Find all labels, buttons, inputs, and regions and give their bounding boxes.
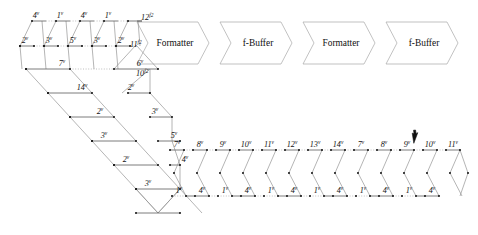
edge-label: 1v <box>360 185 367 195</box>
edge-label: 6v <box>137 58 144 68</box>
diagram-canvas: Formatterf-BufferFormatterf-Buffer 4v1v4… <box>0 0 478 235</box>
edge-label: 3v <box>144 178 152 188</box>
edge-label: 7v <box>59 58 66 68</box>
edge-label: 2v <box>128 82 135 92</box>
pipeline-block-label: f-Buffer <box>409 38 440 48</box>
edge-label: 4v <box>182 154 189 164</box>
edge-label: 1v <box>406 185 413 195</box>
block-group: Formatterf-BufferFormatterf-Buffer <box>137 22 458 64</box>
edge-label: 7v <box>358 139 365 149</box>
edge-label: 8v <box>381 139 388 149</box>
edge-label: 11v <box>448 139 459 149</box>
edge-label: 11f2 <box>130 39 142 49</box>
label-group: 4v1v4v1v2v3v5v3v2v12f211f210f27v6v14v2v2… <box>22 10 459 195</box>
edge-label: 11v <box>264 139 275 149</box>
edge-label: 10f2 <box>136 68 149 78</box>
edge-label: 3v <box>45 35 53 45</box>
edge-label: 4v <box>383 185 390 195</box>
edge-label: 9v <box>404 139 411 149</box>
edge-label: 1v <box>314 185 321 195</box>
pipeline-block-label: f-Buffer <box>243 38 274 48</box>
edge-label: 2v <box>118 35 125 45</box>
edge-label: 4v <box>81 10 88 20</box>
edge-label: 1v <box>105 10 112 20</box>
edge-label: 2v <box>123 154 130 164</box>
pipeline-block-label: Formatter <box>323 38 361 48</box>
mouse-pointer-icon <box>409 129 418 143</box>
edge-label: 1v <box>57 10 64 20</box>
edge-label: 14v <box>333 139 344 149</box>
edge-label: 14v <box>77 82 88 92</box>
edge-label: 1v <box>222 185 229 195</box>
edge-label: 4v <box>33 10 40 20</box>
edge-label: 2v <box>22 35 29 45</box>
edge-label: 1v <box>268 185 275 195</box>
edge-label: 5v <box>70 35 77 45</box>
edge-label: 4v <box>245 185 252 195</box>
edge-label: 4v <box>429 185 436 195</box>
edge-label: 4v <box>199 185 206 195</box>
edge-group <box>20 21 468 213</box>
pipeline-block-label: Formatter <box>157 38 195 48</box>
mouse-pointer-icon <box>409 129 418 143</box>
edge-label: 3v <box>100 130 108 140</box>
edge-label: 10v <box>241 139 252 149</box>
edge-label: 3v <box>151 106 159 116</box>
pipeline-diagram-svg: Formatterf-BufferFormatterf-Buffer 4v1v4… <box>0 0 478 235</box>
edge-label: 5v <box>171 130 178 140</box>
edge-label: 4v <box>337 185 344 195</box>
edge-label: 12f2 <box>141 12 154 22</box>
edge-label: 8v <box>197 139 204 149</box>
edge-label: 3v <box>93 35 101 45</box>
edge-label: 12v <box>287 139 298 149</box>
edge-label: 10v <box>425 139 436 149</box>
edge-label: 9v <box>220 139 227 149</box>
edge-label: 13v <box>310 139 321 149</box>
edge-label: 7v <box>174 139 181 149</box>
edge-label: 1v <box>176 185 183 195</box>
edge-label: 2v <box>97 106 104 116</box>
edge-label: 4v <box>291 185 298 195</box>
